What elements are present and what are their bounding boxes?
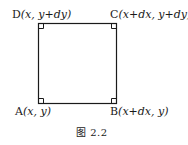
vertex-label-c: C(x+dx, y+dy) (110, 9, 188, 21)
vertex-name-a: A (15, 105, 23, 118)
right-angle-marker-c (112, 24, 117, 29)
right-angle-marker-b (112, 99, 117, 104)
vertex-coords-a: (x, y) (23, 105, 51, 118)
right-angle-marker-a (39, 99, 44, 104)
square-outline (39, 24, 117, 104)
right-angle-marker-d (39, 24, 44, 29)
vertex-label-d: D(x, y+dy) (12, 9, 71, 21)
vertex-label-b: B(x+dx, y) (110, 106, 169, 118)
vertex-coords-b: (x+dx, y) (118, 105, 168, 118)
vertex-coords-c: (x+dx, y+dy) (118, 8, 188, 21)
vertex-name-b: B (110, 105, 118, 118)
vertex-label-a: A(x, y) (15, 106, 51, 118)
figure-caption: 图 2.2 (76, 124, 108, 139)
vertex-coords-d: (x, y+dy) (21, 8, 71, 21)
vertex-name-d: D (12, 8, 21, 21)
